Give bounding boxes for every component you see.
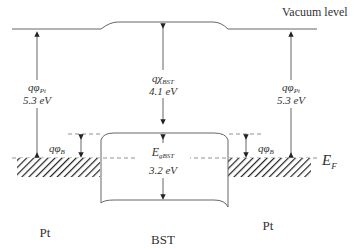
- vacuum-level-label: Vacuum level: [282, 5, 348, 19]
- fermi-level-label: EF: [321, 152, 337, 171]
- vacuum-level-line: [12, 22, 317, 29]
- left-pt-metal: [17, 158, 100, 177]
- bst-label: BST: [151, 232, 175, 247]
- band-diagram: Vacuum level EF qφPt 5.3 eV qχBST 4.1 eV…: [0, 0, 354, 249]
- right-barrier-label: qφB: [258, 142, 275, 156]
- electron-affinity-value: 4.1 eV: [149, 85, 178, 97]
- right-work-function-value: 5.3 eV: [277, 94, 306, 106]
- right-pt-metal: [228, 158, 311, 177]
- right-pt-label: Pt: [263, 218, 274, 233]
- left-work-function-value: 5.3 eV: [23, 94, 52, 106]
- bst-valence-band: [101, 200, 228, 207]
- band-gap-value: 3.2 eV: [148, 164, 178, 176]
- left-barrier-label: qφB: [49, 142, 66, 156]
- left-pt-label: Pt: [40, 225, 51, 240]
